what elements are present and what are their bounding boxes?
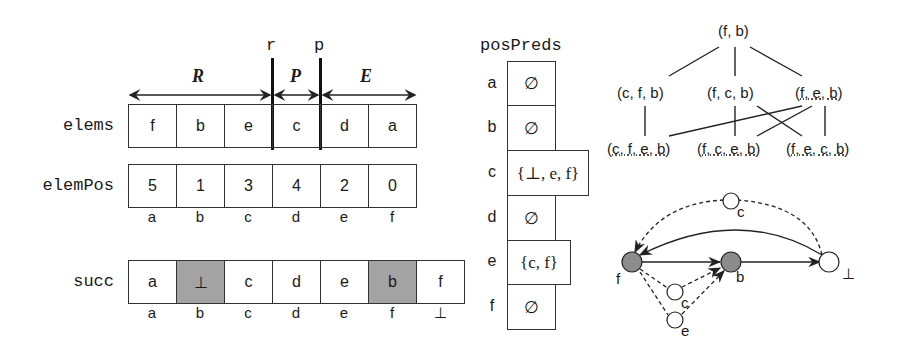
succ-graph xyxy=(600,175,899,350)
posPreds-value: ∅ xyxy=(507,195,556,241)
edge-bot-f xyxy=(640,230,822,255)
lattice-node-level2-underlined: (f, c, e, b) xyxy=(697,140,760,157)
index-label: e xyxy=(320,304,368,322)
graph-label-bot: ⊥ xyxy=(842,265,855,283)
elems-cell: e xyxy=(224,104,273,148)
posPreds-key: e xyxy=(484,252,500,270)
graph-label-b: b xyxy=(736,268,744,285)
elems-label: elems xyxy=(4,116,114,135)
lattice-node-level1-underlined: (f, e, b) xyxy=(795,84,843,101)
graph-label-c-top: c xyxy=(737,203,745,220)
posPreds-key: b xyxy=(484,118,500,136)
graph-label-c-mid: c xyxy=(681,294,689,311)
node-f xyxy=(622,252,642,272)
succ-index: a b c d e f ⊥ xyxy=(128,304,464,322)
lattice-node-level1: (c, f, b) xyxy=(617,84,664,101)
lattice-node-level2-underlined: (f, e, c, b) xyxy=(786,140,849,157)
elems-cell: d xyxy=(320,104,369,148)
index-label: a xyxy=(128,208,176,225)
succ-array: a ⊥ c d e b f xyxy=(129,260,465,304)
elems-cell: f xyxy=(128,104,177,148)
index-label: f xyxy=(368,304,416,322)
elemPos-array: 5 1 3 4 2 0 xyxy=(129,164,417,208)
index-label: b xyxy=(176,208,224,225)
succ-cell: c xyxy=(224,260,273,304)
lattice-node-level1: (f, c, b) xyxy=(707,84,754,101)
succ-cell-shaded: b xyxy=(368,260,417,304)
lattice-root: (f, b) xyxy=(718,22,749,39)
edge-ctop-f xyxy=(635,200,724,252)
edge-bot-ctop xyxy=(737,200,822,255)
index-label: d xyxy=(272,304,320,322)
elemPos-cell: 5 xyxy=(128,164,177,208)
index-label: e xyxy=(320,208,368,225)
lattice-node-level2-underlined: (c, f, e, b) xyxy=(607,140,670,157)
elemPos-cell: 0 xyxy=(368,164,417,208)
posPreds-value: {c, f} xyxy=(507,240,571,285)
index-label: c xyxy=(224,208,272,225)
graph-label-f: f xyxy=(616,270,620,287)
index-label: f xyxy=(368,208,416,225)
index-label: ⊥ xyxy=(416,304,464,322)
posPreds-key: d xyxy=(484,208,500,226)
index-label: a xyxy=(128,304,176,322)
elemPos-cell: 2 xyxy=(320,164,369,208)
posPreds-value: {⊥, e, f} xyxy=(507,150,589,196)
elemPos-cell: 1 xyxy=(176,164,225,208)
posPreds-title: posPreds xyxy=(480,36,562,55)
posPreds-value: ∅ xyxy=(507,105,556,151)
succ-cell: d xyxy=(272,260,321,304)
succ-cell: a xyxy=(128,260,177,304)
succ-cell-shaded: ⊥ xyxy=(176,260,225,304)
succ-label: succ xyxy=(4,272,114,291)
elemPos-cell: 3 xyxy=(224,164,273,208)
posPreds-key: a xyxy=(484,74,500,92)
edge-cmid-b xyxy=(682,268,720,287)
elems-cell: c xyxy=(272,104,321,148)
elems-array: f b e c d a xyxy=(129,104,417,148)
elemPos-index: a b c d e f xyxy=(128,208,416,225)
index-label: b xyxy=(176,304,224,322)
graph-label-e: e xyxy=(681,322,689,339)
posPreds-key: c xyxy=(484,163,500,181)
node-bot xyxy=(819,252,839,272)
index-label: c xyxy=(224,304,272,322)
posPreds-value: ∅ xyxy=(507,61,556,106)
succ-cell: f xyxy=(416,260,465,304)
posPreds-key: f xyxy=(484,297,500,315)
elemPos-label: elemPos xyxy=(4,176,114,195)
elems-cell: a xyxy=(368,104,417,148)
elems-cell: b xyxy=(176,104,225,148)
index-label: d xyxy=(272,208,320,225)
succ-cell: e xyxy=(320,260,369,304)
posPreds-value: ∅ xyxy=(507,284,556,330)
elemPos-cell: 4 xyxy=(272,164,321,208)
